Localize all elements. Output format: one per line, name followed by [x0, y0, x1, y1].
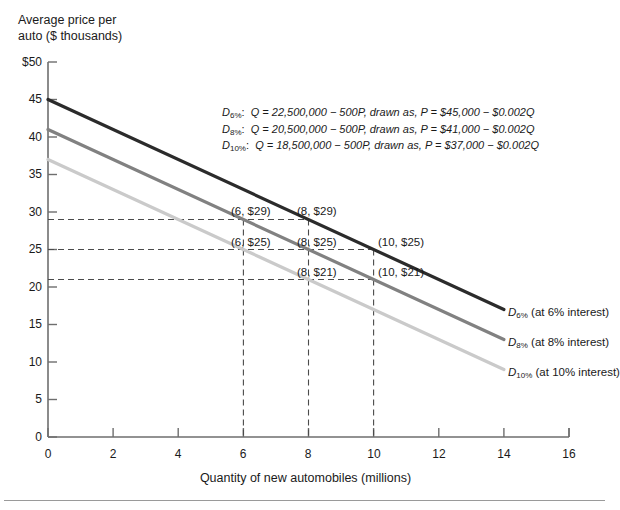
equation-price-form-10pct: P = $37,000 − $0.002Q — [425, 139, 539, 151]
bottom-divider — [4, 500, 605, 501]
y-tick-label-10: 10 — [8, 355, 42, 369]
demand-curve-8pct — [48, 130, 504, 340]
equation-curve-name-8pct: D — [222, 123, 230, 135]
point-label-8-21: (8, $21) — [297, 266, 337, 278]
curve-label-6pct: D6% (at 6% interest) — [508, 306, 609, 320]
curve-label-8pct: D8% (at 8% interest) — [508, 336, 609, 350]
vertical-reference-lines — [243, 220, 373, 438]
equation-quantity-form-10pct: Q = 18,500,000 − 500P, drawn as, — [255, 139, 422, 151]
y-tick-label-40: 40 — [8, 130, 42, 144]
y-tick-label-50: $50 — [8, 55, 42, 69]
y-tick-label-45: 45 — [8, 92, 42, 106]
equation-row-8pct: D8%: Q = 20,500,000 − 500P, drawn as, P … — [222, 121, 539, 138]
point-label-6-25: (6, $25) — [231, 236, 271, 248]
x-tick-label-6: 6 — [231, 447, 255, 461]
x-tick-label-16: 16 — [557, 447, 581, 461]
x-tick-label-2: 2 — [101, 447, 125, 461]
y-tick-label-35: 35 — [8, 167, 42, 181]
y-tick-label-5: 5 — [8, 392, 42, 406]
equation-quantity-form-6pct: Q = 22,500,000 − 500P, drawn as, — [251, 106, 418, 118]
x-tick-label-0: 0 — [36, 447, 60, 461]
equation-colon-10pct: : — [246, 139, 255, 151]
curve-label-text-6pct: (at 6% interest) — [531, 306, 609, 318]
equation-curve-sub-10pct: 10% — [230, 144, 246, 153]
curve-label-sub-8pct: 8% — [516, 341, 528, 350]
point-label-6-29: (6, $29) — [231, 205, 271, 217]
demand-curve-10pct — [48, 160, 504, 370]
x-tick-label-14: 14 — [492, 447, 516, 461]
equation-row-6pct: D6%: Q = 22,500,000 − 500P, drawn as, P … — [222, 104, 539, 121]
point-label-8-29: (8, $29) — [297, 205, 337, 217]
equation-curve-name-6pct: D — [222, 106, 230, 118]
curve-label-text-8pct: (at 8% interest) — [531, 336, 609, 348]
y-tick-label-0: 0 — [8, 430, 42, 444]
y-tick-label-15: 15 — [8, 317, 42, 331]
x-tick-label-12: 12 — [427, 447, 451, 461]
equation-price-form-8pct: P = $41,000 − $0.002Q — [421, 123, 535, 135]
point-label-8-25: (8, $25) — [297, 236, 337, 248]
x-tick-label-10: 10 — [362, 447, 386, 461]
curve-label-text-10pct: (at 10% interest) — [536, 366, 620, 378]
y-tick-label-30: 30 — [8, 205, 42, 219]
curve-label-10pct: D10% (at 10% interest) — [508, 366, 620, 380]
x-tick-label-4: 4 — [166, 447, 190, 461]
equation-block: D6%: Q = 22,500,000 − 500P, drawn as, P … — [222, 104, 539, 154]
equation-colon-6pct: : — [242, 106, 251, 118]
x-axis-title: Quantity of new automobiles (millions) — [0, 470, 611, 486]
equation-colon-8pct: : — [242, 123, 251, 135]
y-tick-label-25: 25 — [8, 242, 42, 256]
equation-curve-sub-6pct: 6% — [230, 111, 242, 120]
y-tick-label-20: 20 — [8, 280, 42, 294]
x-tick-label-8: 8 — [296, 447, 320, 461]
point-label-10-21: (10, $21) — [378, 266, 424, 278]
equation-quantity-form-8pct: Q = 20,500,000 − 500P, drawn as, — [251, 123, 418, 135]
point-label-10-25: (10, $25) — [378, 236, 424, 248]
equation-price-form-6pct: P = $45,000 − $0.002Q — [421, 106, 535, 118]
equation-row-10pct: D10%: Q = 18,500,000 − 500P, drawn as, P… — [222, 137, 539, 154]
curve-label-sub-6pct: 6% — [516, 311, 528, 320]
y-tick-marks — [48, 100, 57, 438]
equation-curve-sub-8pct: 8% — [230, 128, 242, 137]
curve-label-sub-10pct: 10% — [516, 371, 532, 380]
equation-curve-name-10pct: D — [222, 139, 230, 151]
